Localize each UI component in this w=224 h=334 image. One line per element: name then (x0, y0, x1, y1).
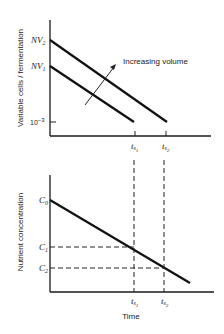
top-chart: Increasing volume NV2 NV1 10−3 ts1 ts2 V… (16, 20, 211, 153)
ten-minus-three-label: 10−3 (30, 117, 45, 126)
nv1-label: NV1 (30, 61, 46, 72)
ts1-label-bottom: ts1 (131, 296, 138, 308)
ts2-label-top: ts2 (162, 141, 170, 153)
c1-label: C1 (39, 242, 48, 253)
nv2-label: NV2 (30, 35, 46, 46)
c0-label: C0 (39, 195, 48, 206)
ts1-label-top: ts1 (131, 141, 138, 153)
top-y-axis-title: Variable cells / fermentation (16, 29, 25, 127)
diagram-canvas: Increasing volume NV2 NV1 10−3 ts1 ts2 V… (0, 0, 224, 334)
bottom-chart: C0 C1 C2 ts1 ts2 Time Nutrient concentra… (16, 160, 214, 321)
bottom-x-axis-title: Time (122, 312, 140, 321)
bottom-y-axis-title: Nutrient concentration (16, 193, 25, 271)
nv2-decay-line (50, 40, 167, 122)
c2-label: C2 (39, 263, 48, 274)
nv1-decay-line (50, 66, 134, 122)
ts2-label-bottom: ts2 (161, 296, 169, 308)
nutrient-decay-line (50, 200, 190, 283)
arrowhead-icon (110, 64, 116, 70)
increasing-volume-label: Increasing volume (123, 57, 188, 66)
